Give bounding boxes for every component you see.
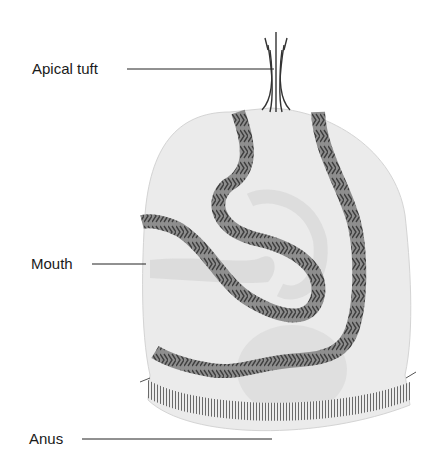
apical-tuft-cilia [262,32,290,112]
diagram-canvas: Apical tuft Mouth Anus [0,0,434,476]
larva-body [143,108,411,431]
label-mouth: Mouth [31,255,73,272]
label-anus: Anus [29,430,63,447]
label-apical-tuft: Apical tuft [32,60,98,77]
